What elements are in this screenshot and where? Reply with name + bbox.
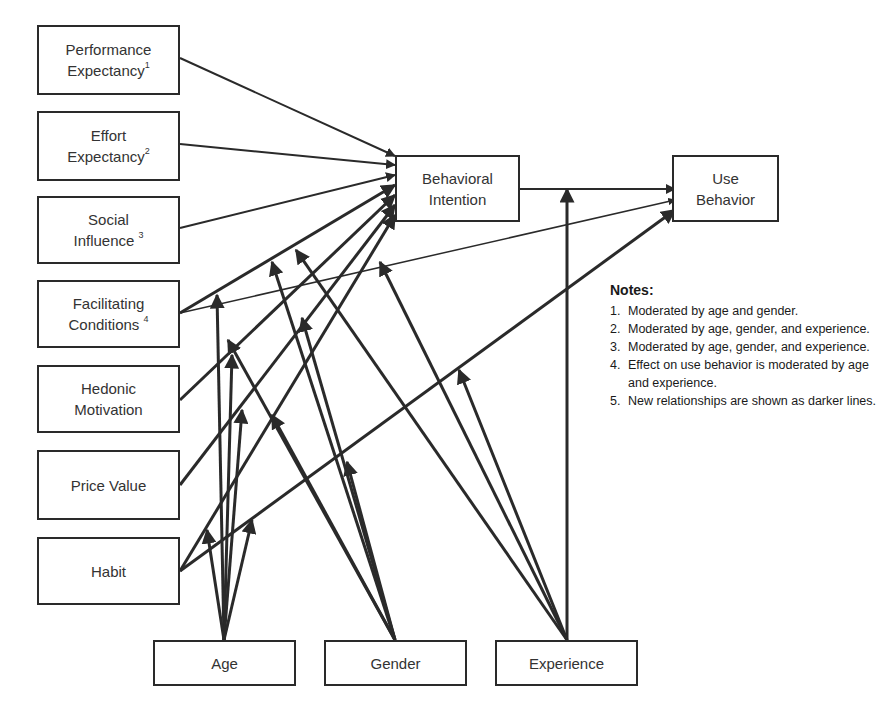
footnote-marker: 2 <box>145 146 150 156</box>
box-label: Intention <box>429 191 487 208</box>
box-label: Conditions <box>68 316 143 333</box>
box-label: Performance <box>66 41 152 58</box>
performance-expectancy-box: PerformanceExpectancy1 <box>37 25 180 95</box>
relationship-arrow <box>459 370 567 640</box>
footnote-marker: 3 <box>139 230 144 240</box>
box-label: Gender <box>370 653 420 674</box>
note-number: 4. <box>610 356 628 392</box>
box-label: Behavioral <box>422 170 493 187</box>
relationship-arrow <box>217 295 224 640</box>
price-value-box: Price Value <box>37 450 180 520</box>
box-label: Facilitating <box>73 295 145 312</box>
habit-box: Habit <box>37 537 180 605</box>
social-influence-box: SocialInfluence 3 <box>37 196 180 264</box>
box-label: Influence <box>73 232 138 249</box>
note-item: 1.Moderated by age and gender. <box>610 302 880 320</box>
behavioral-intention-box: BehavioralIntention <box>395 155 520 222</box>
notes-list: 1.Moderated by age and gender. 2.Moderat… <box>610 302 880 410</box>
relationship-arrow <box>180 175 395 228</box>
box-label: Behavior <box>696 191 755 208</box>
note-number: 5. <box>610 392 628 410</box>
relationship-arrow <box>380 262 567 640</box>
relationship-arrow <box>347 462 395 640</box>
note-item: 3.Moderated by age, gender, and experien… <box>610 338 880 356</box>
relationship-arrow <box>180 144 395 165</box>
use-behavior-box: UseBehavior <box>672 155 779 222</box>
note-number: 3. <box>610 338 628 356</box>
box-label: Hedonic <box>81 380 136 397</box>
notes-title: Notes: <box>610 282 880 298</box>
note-item: 5.New relationships are shown as darker … <box>610 392 880 410</box>
box-label: Social <box>88 211 129 228</box>
note-item: 4.Effect on use behavior is moderated by… <box>610 356 880 392</box>
box-label: Motivation <box>74 401 142 418</box>
note-text: Moderated by age, gender, and experience… <box>628 320 870 338</box>
note-text: Moderated by age, gender, and experience… <box>628 338 870 356</box>
box-label: Price Value <box>71 475 147 496</box>
note-text: New relationships are shown as darker li… <box>628 392 876 410</box>
box-label: Habit <box>91 561 126 582</box>
experience-box: Experience <box>495 640 638 686</box>
note-item: 2.Moderated by age, gender, and experien… <box>610 320 880 338</box>
age-box: Age <box>153 640 296 686</box>
box-label: Use <box>712 170 739 187</box>
note-text: Moderated by age and gender. <box>628 302 798 320</box>
box-label: Effort <box>91 127 127 144</box>
footnote-marker: 1 <box>145 60 150 70</box>
hedonic-motivation-box: HedonicMotivation <box>37 365 180 433</box>
box-label: Expectancy <box>67 62 145 79</box>
box-label: Age <box>211 653 238 674</box>
footnote-marker: 4 <box>144 314 149 324</box>
effort-expectancy-box: EffortExpectancy2 <box>37 111 180 181</box>
note-text: Effect on use behavior is moderated by a… <box>628 356 880 392</box>
note-number: 1. <box>610 302 628 320</box>
gender-box: Gender <box>324 640 467 686</box>
facilitating-conditions-box: FacilitatingConditions 4 <box>37 280 180 348</box>
relationship-arrow <box>296 250 567 640</box>
box-label: Expectancy <box>67 148 145 165</box>
note-number: 2. <box>610 320 628 338</box>
notes-panel: Notes: 1.Moderated by age and gender. 2.… <box>610 282 880 410</box>
relationship-arrow <box>180 58 395 156</box>
box-label: Experience <box>529 653 604 674</box>
relationship-arrow <box>180 195 395 400</box>
